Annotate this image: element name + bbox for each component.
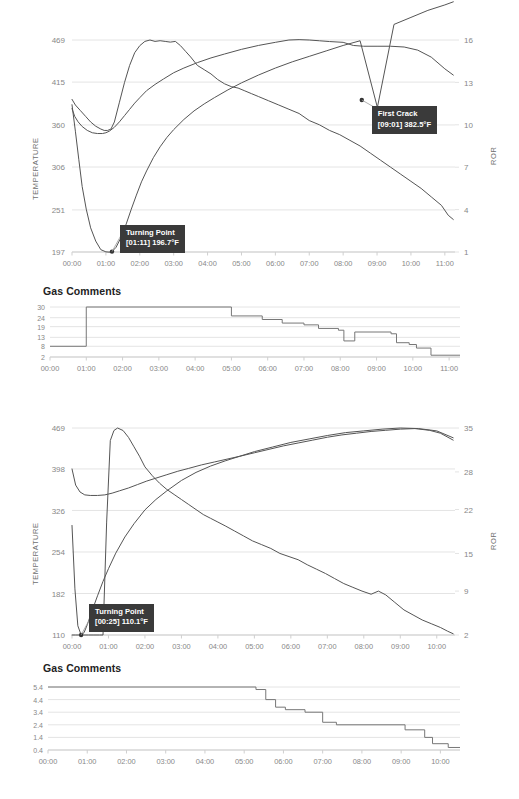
temperature-ror-chart-1: 19725130636041546914710131600:0001:0002:…: [0, 0, 519, 285]
roast-profile-2: 110182254326398469291522283500:0001:0002…: [0, 400, 519, 799]
gas-chart-canvas-2: 0.41.42.43.44.45.400:0001:0002:0003:0004…: [0, 662, 519, 792]
svg-text:2.4: 2.4: [33, 722, 43, 729]
svg-text:07:00: 07:00: [313, 757, 332, 766]
svg-text:469: 469: [52, 424, 66, 433]
chart-canvas-1: 19725130636041546914710131600:0001:0002:…: [0, 0, 519, 285]
svg-text:04:00: 04:00: [186, 364, 205, 373]
temperature-ror-chart-2: 110182254326398469291522283500:0001:0002…: [0, 400, 519, 662]
svg-text:08:00: 08:00: [355, 642, 374, 651]
ror-axis-title-1: ROR: [489, 147, 498, 165]
gas-chart-canvas-1: 281319243000:0001:0002:0003:0004:0005:00…: [0, 285, 519, 390]
turning-point-callout-1: Turning Point [01:11] 196.7°F: [120, 225, 185, 253]
svg-text:10:00: 10:00: [404, 364, 423, 373]
svg-text:00:00: 00:00: [41, 364, 60, 373]
callout-value: [00:25] 110.1°F: [95, 617, 148, 628]
svg-text:8: 8: [41, 343, 45, 350]
svg-text:01:00: 01:00: [99, 642, 118, 651]
svg-text:09:00: 09:00: [392, 757, 411, 766]
svg-text:03:00: 03:00: [150, 364, 169, 373]
svg-text:06:00: 06:00: [282, 642, 301, 651]
svg-text:469: 469: [52, 36, 66, 45]
ror-axis-title-2: ROR: [489, 532, 498, 550]
svg-text:06:00: 06:00: [274, 757, 293, 766]
svg-text:02:00: 02:00: [113, 364, 132, 373]
svg-text:11:00: 11:00: [436, 259, 454, 268]
svg-text:15: 15: [464, 550, 473, 559]
svg-text:10:00: 10:00: [428, 642, 447, 651]
svg-text:07:00: 07:00: [295, 364, 314, 373]
svg-text:04:00: 04:00: [196, 757, 215, 766]
svg-text:35: 35: [464, 424, 473, 433]
svg-text:22: 22: [464, 506, 473, 515]
callout-value: [09:01] 382.5°F: [378, 120, 431, 131]
svg-text:03:00: 03:00: [156, 757, 175, 766]
svg-text:01:00: 01:00: [77, 364, 96, 373]
gas-comments-panel-2: Gas Comments 0.41.42.43.44.45.400:0001:0…: [0, 662, 519, 792]
svg-text:398: 398: [52, 465, 66, 474]
callout-title: Turning Point: [126, 228, 179, 239]
svg-text:03:00: 03:00: [164, 259, 183, 268]
svg-text:02:00: 02:00: [117, 757, 136, 766]
svg-text:07:00: 07:00: [300, 259, 319, 268]
svg-text:05:00: 05:00: [222, 364, 241, 373]
svg-text:3.4: 3.4: [33, 709, 43, 716]
svg-text:09:00: 09:00: [367, 364, 386, 373]
svg-text:07:00: 07:00: [318, 642, 337, 651]
svg-text:00:00: 00:00: [63, 642, 82, 651]
svg-text:08:00: 08:00: [331, 364, 350, 373]
svg-text:197: 197: [52, 248, 66, 257]
svg-text:2: 2: [41, 354, 45, 361]
temperature-axis-title-1: TEMPERATURE: [31, 137, 40, 200]
svg-text:04:00: 04:00: [198, 259, 217, 268]
chart-canvas-2: 110182254326398469291522283500:0001:0002…: [0, 400, 519, 662]
svg-text:02:00: 02:00: [131, 259, 150, 268]
callout-title: Turning Point: [95, 607, 148, 618]
svg-text:1: 1: [464, 248, 469, 257]
roast-profile-1: 19725130636041546914710131600:0001:0002:…: [0, 0, 519, 390]
svg-text:0.4: 0.4: [33, 747, 43, 754]
svg-text:28: 28: [464, 468, 473, 477]
svg-text:19: 19: [37, 324, 45, 331]
svg-text:01:00: 01:00: [97, 259, 116, 268]
roast-profile-page: 19725130636041546914710131600:0001:0002:…: [0, 0, 519, 799]
turning-point-callout-2: Turning Point [00:25] 110.1°F: [89, 604, 154, 632]
svg-text:04:00: 04:00: [209, 642, 228, 651]
svg-text:1.4: 1.4: [33, 734, 43, 741]
svg-text:415: 415: [52, 78, 66, 87]
svg-text:11:00: 11:00: [440, 364, 458, 373]
svg-text:251: 251: [52, 206, 66, 215]
callout-value: [01:11] 196.7°F: [126, 238, 179, 249]
gas-comments-title-2: Gas Comments: [43, 662, 121, 674]
svg-text:110: 110: [52, 631, 65, 640]
callout-title: First Crack: [378, 109, 431, 120]
svg-text:08:00: 08:00: [353, 757, 372, 766]
svg-text:05:00: 05:00: [245, 642, 264, 651]
svg-text:09:00: 09:00: [368, 259, 387, 268]
svg-text:30: 30: [37, 304, 45, 311]
svg-text:06:00: 06:00: [266, 259, 285, 268]
svg-text:10:00: 10:00: [402, 259, 421, 268]
gas-comments-title-1: Gas Comments: [43, 285, 121, 297]
svg-text:10:00: 10:00: [431, 757, 450, 766]
svg-text:01:00: 01:00: [78, 757, 97, 766]
temperature-axis-title-2: TEMPERATURE: [31, 522, 40, 585]
svg-text:4.4: 4.4: [33, 697, 43, 704]
svg-text:09:00: 09:00: [391, 642, 410, 651]
svg-text:02:00: 02:00: [136, 642, 155, 651]
svg-text:03:00: 03:00: [172, 642, 191, 651]
svg-text:326: 326: [52, 507, 66, 516]
svg-text:00:00: 00:00: [63, 259, 82, 268]
svg-text:06:00: 06:00: [258, 364, 277, 373]
svg-text:182: 182: [52, 590, 66, 599]
svg-text:5.4: 5.4: [33, 684, 43, 691]
svg-text:10: 10: [464, 121, 473, 130]
svg-text:24: 24: [37, 315, 45, 322]
svg-text:360: 360: [52, 121, 66, 130]
svg-text:13: 13: [37, 334, 45, 341]
svg-text:7: 7: [464, 163, 469, 172]
svg-text:16: 16: [464, 36, 473, 45]
svg-text:05:00: 05:00: [235, 757, 254, 766]
svg-text:306: 306: [52, 163, 66, 172]
svg-text:254: 254: [52, 548, 66, 557]
svg-text:2: 2: [464, 631, 469, 640]
